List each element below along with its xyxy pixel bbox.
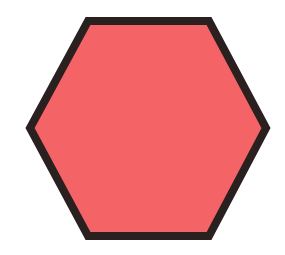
diagram-canvas <box>0 0 285 255</box>
hexagon-diagram <box>0 0 285 255</box>
